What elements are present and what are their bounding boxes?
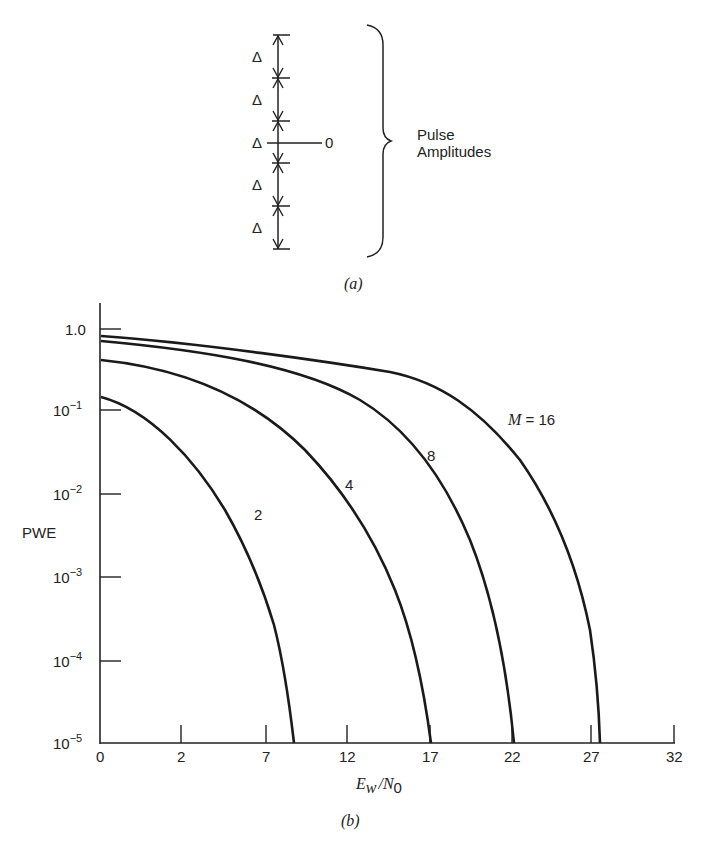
x-tick-label: 7	[262, 748, 270, 765]
delta-label: Δ	[252, 91, 262, 108]
pulse-amplitude-diagram: Δ Δ Δ Δ Δ 0 Pulse Amplitudes (a)	[252, 25, 491, 293]
curly-brace	[367, 25, 391, 257]
amplitude-level-ticks	[272, 35, 290, 249]
y-axis-label: PWE	[22, 524, 56, 541]
x-tick-label: 0	[96, 748, 104, 765]
curve-label-m4: 4	[345, 476, 353, 493]
delta-label: Δ	[252, 219, 262, 236]
y-tick-label: 10−4	[53, 650, 82, 670]
delta-label: Δ	[252, 134, 262, 151]
curve-label-m16: M = 16	[507, 411, 555, 428]
curve-m16	[101, 336, 600, 743]
curve-m8	[101, 341, 514, 743]
curve-label-m2: 2	[254, 506, 262, 523]
x-tick-label: 2	[177, 748, 185, 765]
y-tick-label: 10−5	[53, 732, 82, 752]
x-tick-labels: 0 2 7 12 17 22 27 32	[96, 748, 683, 765]
x-tick-label: 27	[583, 748, 600, 765]
y-tick-label: 1.0	[65, 321, 86, 338]
brace-label-line1: Pulse	[417, 126, 455, 143]
x-axis-label: Ew/N0	[355, 775, 402, 796]
x-tick-label: 32	[666, 748, 683, 765]
figure-canvas: Δ Δ Δ Δ Δ 0 Pulse Amplitudes (a) 1.0 10−…	[0, 0, 711, 855]
caption-a: (a)	[344, 275, 363, 293]
curve-label-m8: 8	[427, 447, 435, 464]
brace-label-line2: Amplitudes	[417, 143, 491, 160]
caption-b: (b)	[341, 812, 360, 830]
delta-label: Δ	[252, 176, 262, 193]
delta-label: Δ	[252, 48, 262, 65]
zero-label: 0	[325, 134, 333, 151]
x-tick-label: 17	[422, 748, 439, 765]
y-tick-label: 10−3	[53, 566, 82, 586]
curve-m4	[101, 360, 431, 743]
y-tick-label: 10−2	[53, 483, 82, 503]
x-tick-label: 12	[339, 748, 356, 765]
y-tick-label: 10−1	[53, 399, 82, 419]
curve-m2	[101, 397, 294, 743]
y-axis-ticks	[100, 329, 121, 661]
x-tick-label: 22	[504, 748, 521, 765]
y-tick-labels: 1.0 10−1 10−2 10−3 10−4 10−5	[53, 321, 86, 752]
pwe-chart: 1.0 10−1 10−2 10−3 10−4 10−5 PWE 0 2 7 1…	[22, 303, 683, 830]
